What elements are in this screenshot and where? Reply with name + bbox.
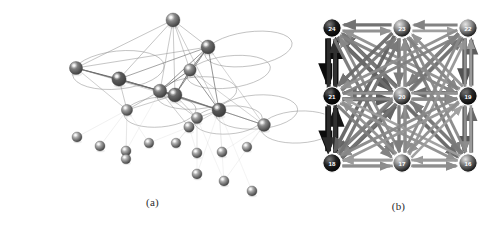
network-node <box>153 84 167 98</box>
grid-node <box>459 19 477 37</box>
network-node <box>184 122 194 132</box>
panel-a-3d-network: (a) <box>0 0 305 230</box>
network-node <box>95 141 105 151</box>
network-node <box>201 40 215 54</box>
network-node <box>217 147 227 157</box>
panel-b-canvas: 242322212019181716 <box>305 0 492 200</box>
network-node <box>192 169 202 179</box>
network-node <box>191 112 202 123</box>
network-node <box>212 103 226 117</box>
network-node <box>247 186 257 196</box>
panel-a-caption: (a) <box>0 196 305 208</box>
panel-a-nodes <box>69 13 270 197</box>
grid-node <box>323 154 341 172</box>
grid-node <box>459 154 477 172</box>
network-node <box>69 61 82 74</box>
panel-a-edges <box>76 20 264 191</box>
network-node <box>112 72 126 86</box>
network-node <box>121 104 132 115</box>
grid-node <box>393 154 411 172</box>
network-node <box>166 13 180 27</box>
grid-node <box>323 87 341 105</box>
network-node <box>171 138 181 148</box>
network-node <box>72 132 82 142</box>
grid-node <box>393 19 411 37</box>
grid-node <box>323 19 341 37</box>
network-node <box>219 176 229 186</box>
panel-b-caption: (b) <box>305 200 492 212</box>
panel-b-grid-graph: 242322212019181716 (b) <box>305 0 492 230</box>
grid-node <box>393 87 411 105</box>
network-node <box>258 119 271 132</box>
network-node <box>144 138 154 148</box>
network-node <box>121 154 131 164</box>
network-node <box>184 64 196 76</box>
grid-node <box>459 87 477 105</box>
network-node <box>168 88 182 102</box>
two-panel-network-figure: (a) 242322212019181716 (b) <box>0 0 492 230</box>
panel-a-canvas <box>0 0 305 200</box>
network-node <box>192 148 202 158</box>
network-node <box>242 142 252 152</box>
